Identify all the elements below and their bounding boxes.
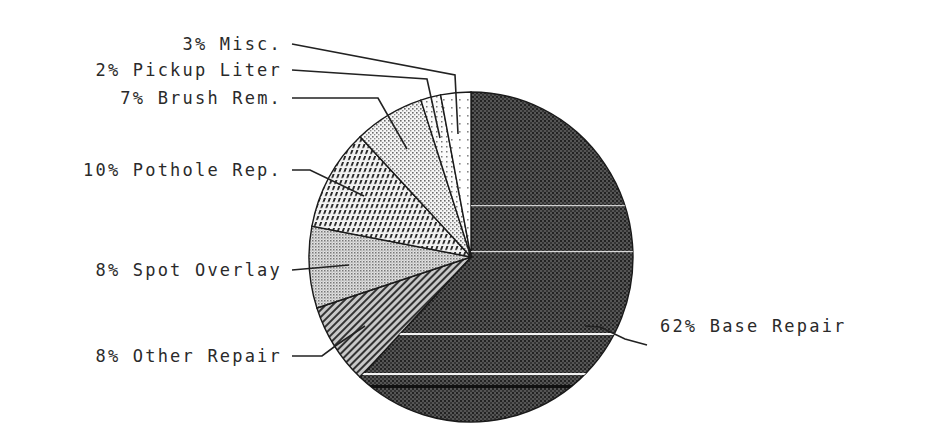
label-misc: 3% Misc.	[183, 34, 282, 54]
scan-streak	[300, 373, 640, 375]
label-spot-overlay: 8% Spot Overlay	[95, 260, 282, 280]
label-other-repair: 8% Other Repair	[95, 346, 282, 366]
pie-slices	[309, 92, 633, 422]
label-pickup-liter: 2% Pickup Liter	[95, 60, 282, 80]
label-pothole-rep: 10% Pothole Rep.	[83, 160, 282, 180]
pie-chart: 3% Misc. 2% Pickup Liter 7% Brush Rem. 1…	[0, 0, 926, 442]
label-brush-rem: 7% Brush Rem.	[120, 88, 282, 108]
scan-streak	[300, 385, 640, 388]
label-base-repair: 62% Base Repair	[660, 316, 847, 336]
